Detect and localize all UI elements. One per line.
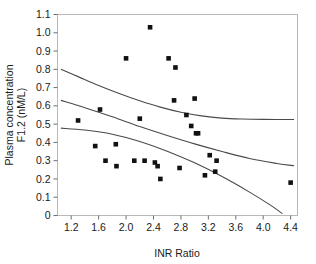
y-tick-label: 0.4 [36,136,51,148]
data-point-marker [207,153,212,158]
data-point-marker [172,98,177,103]
x-tick-label: 4.0 [256,221,271,233]
data-point-marker [158,177,163,182]
data-point-marker [148,25,153,30]
data-point-marker [113,142,118,147]
x-tick-label: 4.4 [283,221,298,233]
x-tick-label: 1.6 [91,221,106,233]
x-tick-label: 3.2 [201,221,216,233]
data-point-marker [76,118,81,123]
x-axis-tick-labels: 1.21.62.02.42.83.23.64.04.4 [64,221,298,233]
data-point-marker [173,65,178,70]
y-tick-label: 1.0 [36,26,51,38]
x-tick-label: 2.4 [146,221,161,233]
plot-area-frame [58,15,298,216]
data-point-marker [166,56,171,61]
scatter-chart-figure: 00.10.20.30.40.50.60.70.80.91.01.1 1.21.… [0,0,316,264]
y-tick-label: 0.8 [36,63,51,75]
y-axis-title-line1: Plasma concentration [3,64,15,165]
x-tick-label: 2.0 [119,221,134,233]
data-point-marker [203,173,208,178]
data-point-marker [196,131,201,136]
data-point-marker [184,113,189,118]
y-tick-label: 1.1 [36,8,51,20]
data-point-marker [288,180,293,185]
y-tick-label: 0.3 [36,154,51,166]
data-point-marker [155,164,160,169]
y-tick-label: 0.1 [36,191,51,203]
data-point-marker [124,56,129,61]
x-axis-title: INR Ratio [154,247,200,259]
y-tick-label: 0.7 [36,81,51,93]
x-tick-label: 3.6 [228,221,243,233]
data-point-marker [189,124,194,129]
y-tick-label: 0.9 [36,45,51,57]
data-point-marker [114,164,119,169]
data-point-marker [213,169,218,174]
data-point-marker [192,96,197,101]
data-point-marker [137,116,142,121]
y-axis-title-line2: F1.2 (nM/L) [15,88,27,142]
x-tick-label: 1.2 [64,221,79,233]
x-tick-label: 2.8 [174,221,189,233]
y-tick-label: 0.5 [36,118,51,130]
data-point-marker [98,107,103,112]
data-point-marker [103,158,108,163]
data-point-marker [132,158,137,163]
data-point-marker [142,158,147,163]
data-point-marker [177,166,182,171]
chart-canvas: 00.10.20.30.40.50.60.70.80.91.01.1 1.21.… [0,0,316,264]
data-point-marker [214,158,219,163]
y-tick-label: 0 [45,209,51,221]
y-tick-label: 0.6 [36,99,51,111]
y-tick-label: 0.2 [36,173,51,185]
data-point-marker [93,144,98,149]
